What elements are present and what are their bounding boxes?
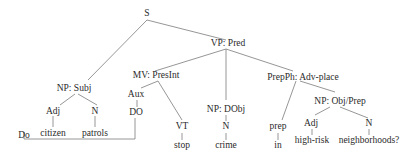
word-crime: crime: [215, 140, 237, 151]
word-citizen: citizen: [40, 128, 65, 139]
node-np-dobj: NP: DObj: [207, 104, 245, 115]
word-patrols: patrols: [82, 128, 108, 139]
node-mv-presint: MV: PresInt: [133, 70, 180, 81]
node-vt: VT: [176, 121, 189, 132]
node-n-2: N: [223, 121, 230, 132]
node-do-upper: DO: [129, 107, 143, 118]
node-s: S: [144, 8, 149, 19]
word-high-risk: high-risk: [295, 135, 329, 146]
node-np-obj-prep: NP: Obj/Prep: [314, 96, 365, 107]
node-prepph-adv-place: PrepPh: Adv-place: [267, 72, 339, 83]
syntax-tree-diagram: S VP: Pred NP: Subj MV: PresInt NP: DObj…: [0, 0, 418, 157]
node-aux: Aux: [128, 89, 144, 100]
node-n-3: N: [366, 118, 373, 129]
word-in: in: [274, 140, 281, 151]
word-do: Do: [18, 130, 30, 141]
node-np-subj: NP: Subj: [57, 83, 92, 94]
node-prep: prep: [270, 121, 287, 132]
node-vp-pred: VP: Pred: [211, 38, 246, 49]
node-adj-2: Adj: [304, 118, 318, 129]
word-neighborhoods: neighborhoods?: [339, 135, 400, 146]
word-stop: stop: [174, 140, 190, 151]
node-adj-1: Adj: [46, 106, 60, 117]
node-n-1: N: [92, 106, 99, 117]
